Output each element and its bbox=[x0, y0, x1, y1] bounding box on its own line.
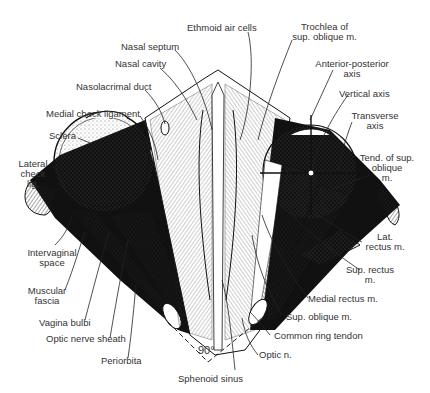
label-lat-rectus-line2: rectus m. bbox=[355, 242, 415, 253]
label-transverse-axis-line2: axis bbox=[345, 121, 405, 132]
label-optic-n: Optic n. bbox=[259, 350, 292, 361]
label-nasolacrimal-duct: Nasolacrimal duct bbox=[76, 82, 152, 93]
label-ap-axis-line2: axis bbox=[307, 69, 397, 80]
label-common-ring-tendon: Common ring tendon bbox=[274, 331, 363, 342]
label-lateral-check-line3: lig. bbox=[16, 179, 50, 190]
label-periorbita: Periorbita bbox=[101, 356, 142, 367]
label-trochlea-line2: sup. oblique m. bbox=[287, 32, 362, 43]
label-medial-rectus: Medial rectus m. bbox=[308, 294, 378, 305]
label-muscular-fascia-line2: fascia bbox=[22, 296, 72, 307]
label-nasal-cavity: Nasal cavity bbox=[115, 59, 166, 70]
label-vertical-axis: Vertical axis bbox=[339, 89, 390, 100]
label-nasal-septum: Nasal septum bbox=[121, 42, 179, 53]
label-optic-nerve-sheath: Optic nerve sheath bbox=[46, 334, 126, 345]
label-sclera: Sclera bbox=[49, 131, 76, 142]
label-tend-sup-oblique-line3: m. bbox=[357, 173, 417, 184]
label-intervaginal-line2: space bbox=[22, 258, 82, 269]
label-vagina-bulbi: Vagina bulbi bbox=[39, 318, 91, 329]
label-angle-90: 90° bbox=[198, 345, 215, 356]
label-sup-oblique: Sup. oblique m. bbox=[286, 312, 352, 323]
label-medial-check-ligament: Medial check ligament bbox=[46, 109, 140, 120]
label-ethmoid-air-cells: Ethmoid air cells bbox=[187, 23, 257, 34]
label-sup-rectus-line2: m. bbox=[340, 275, 400, 286]
label-sphenoid-sinus: Sphenoid sinus bbox=[178, 374, 243, 385]
